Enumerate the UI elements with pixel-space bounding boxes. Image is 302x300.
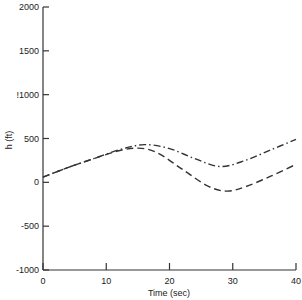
line-chart: 20001500!10005000-500-1000 010203040 Tim…: [0, 0, 302, 300]
x-axis-ticks: 010203040: [40, 263, 301, 286]
y-tick-label: 0: [34, 177, 39, 187]
y-tick-label: 2000: [19, 2, 39, 12]
x-axis-label: Time (sec): [148, 288, 190, 298]
y-axis-label: h (ft): [4, 131, 14, 150]
plot-area: [43, 139, 296, 191]
dash-dot-series-line: [43, 139, 296, 177]
y-axis-ticks: 20001500!10005000-500-1000: [16, 2, 49, 275]
y-tick-label: !1000: [16, 90, 39, 100]
x-tick-label: 10: [101, 276, 111, 286]
x-tick-label: 20: [164, 276, 174, 286]
x-tick-label: 0: [40, 276, 45, 286]
axes: [43, 7, 296, 270]
x-tick-label: 30: [228, 276, 238, 286]
y-tick-label: 500: [24, 134, 39, 144]
y-tick-label: -1000: [16, 265, 39, 275]
x-tick-label: 40: [291, 276, 301, 286]
dashed-series-line: [43, 148, 296, 191]
y-tick-label: 1500: [19, 46, 39, 56]
y-tick-label: -500: [21, 221, 39, 231]
